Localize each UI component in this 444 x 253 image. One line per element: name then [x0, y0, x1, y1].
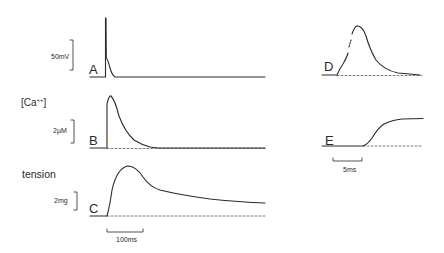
- trace-d-gap: [349, 40, 351, 47]
- row-label-calcium: [Ca++]: [21, 97, 46, 108]
- time-label-5ms: 5ms: [343, 166, 356, 173]
- time-label-100ms: 100ms: [116, 236, 137, 243]
- scale-label-2um: 2µM: [53, 127, 67, 134]
- panel-label-c: C: [89, 202, 98, 215]
- panel-label-b: B: [89, 134, 98, 147]
- trace-d-peak: [352, 26, 420, 75]
- scale-bar-50mv: [70, 40, 73, 70]
- panel-label-d: D: [324, 60, 333, 73]
- time-bar-100ms: [107, 229, 143, 232]
- ca-superscript: ++: [37, 97, 44, 103]
- trace-c: [90, 166, 265, 216]
- ca-close: ]: [44, 97, 47, 108]
- scale-bar-2mg: [74, 192, 77, 210]
- panel-label-e: E: [325, 134, 334, 147]
- ca-text: [Ca: [21, 97, 37, 108]
- trace-a: [90, 18, 265, 77]
- scale-label-50mv: 50mV: [51, 53, 69, 60]
- trace-e: [322, 119, 423, 147]
- scale-bar-2um: [71, 120, 74, 143]
- trace-b: [90, 96, 265, 148]
- panel-label-a: A: [89, 63, 98, 76]
- time-bar-5ms: [333, 158, 362, 161]
- scale-label-2mg: 2mg: [54, 197, 68, 204]
- row-label-tension: tension: [22, 169, 56, 180]
